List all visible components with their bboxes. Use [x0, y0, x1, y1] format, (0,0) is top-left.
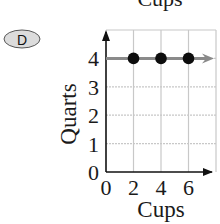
- x-axis-label: Cups: [137, 197, 184, 222]
- grid: [106, 30, 216, 172]
- option-badge[interactable]: D: [4, 30, 40, 48]
- option-badge-label: D: [17, 32, 27, 48]
- x-tick-label: 0: [101, 175, 112, 200]
- y-tick-label: 3: [88, 75, 99, 100]
- chart: Cups D 024601234 Cups Quarts: [0, 0, 220, 224]
- y-tick-label: 1: [88, 132, 99, 157]
- clipped-top-label: Cups: [137, 0, 182, 11]
- y-axis-label: Quarts: [56, 83, 81, 144]
- x-axis-arrow-icon: [203, 168, 213, 176]
- points: [128, 53, 195, 65]
- axes: [102, 30, 213, 176]
- data-point: [183, 53, 195, 65]
- data-point: [155, 53, 167, 65]
- y-tick-label: 4: [88, 46, 99, 71]
- data-point: [128, 53, 140, 65]
- y-axis-arrow-icon: [102, 30, 110, 41]
- y-tick-label: 0: [88, 160, 99, 185]
- y-tick-label: 2: [88, 103, 99, 128]
- tick-labels: 024601234: [88, 46, 194, 200]
